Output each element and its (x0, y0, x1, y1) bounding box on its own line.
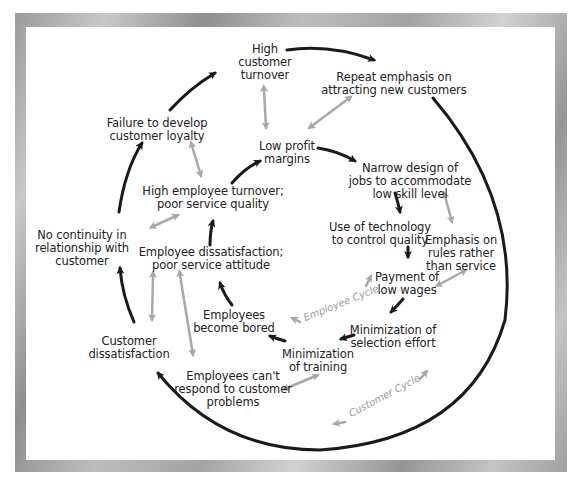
node-text: Failure to develop customer loyalty (107, 116, 208, 143)
node-text: Employees become bored (193, 308, 275, 335)
node-high-employee-turnover: High employee turnover; poor service qua… (142, 185, 283, 211)
node-text: Employee dissatisfaction; poor service a… (139, 245, 284, 272)
node-repeat-emphasis: Repeat emphasis on attracting new custom… (321, 71, 466, 97)
node-failure-customer-loyalty: Failure to develop customer loyalty (107, 117, 208, 143)
node-employees-become-bored: Employees become bored (193, 309, 275, 335)
arrow-failure-loyalty-to-high-turnover (170, 73, 215, 110)
arrow-low-profit-to-narrow-design (318, 148, 355, 161)
assoc-no-continuity-high-employee-turnover (154, 215, 178, 226)
node-payment-low-wages: Payment of low wages (375, 271, 439, 297)
assoc-repeat-emphasis-low-profit (309, 99, 348, 128)
node-text: Employees can't respond to customer prob… (174, 369, 292, 409)
node-narrow-job-design: Narrow design of jobs to accommodate low… (349, 162, 472, 201)
node-no-continuity: No continuity in relationship with custo… (35, 229, 129, 268)
customer-cycle-arrow-up (420, 371, 427, 379)
node-text: No continuity in relationship with custo… (35, 228, 129, 268)
node-text: Repeat emphasis on attracting new custom… (321, 70, 466, 97)
node-text: Emphasis on rules rather than service (425, 233, 497, 273)
node-text: Customer dissatisfaction (88, 334, 169, 361)
assoc-dissatisfaction-cant-respond (180, 275, 193, 355)
node-text: Low profit margins (259, 139, 315, 166)
node-text: High customer turnover (238, 42, 291, 82)
employee-cycle-arrow-left (292, 318, 300, 322)
node-minimization-selection: Minimization of selection effort (350, 324, 436, 350)
node-text: Payment of low wages (375, 270, 439, 297)
node-text: High employee turnover; poor service qua… (142, 184, 283, 211)
arrow-wages-to-selection (391, 299, 403, 312)
node-emphasis-on-rules: Emphasis on rules rather than service (425, 234, 497, 273)
node-employees-cant-respond: Employees can't respond to customer prob… (174, 370, 292, 409)
arrow-training-to-bored (270, 336, 285, 341)
node-low-profit-margins: Low profit margins (259, 140, 315, 166)
node-text: Narrow design of jobs to accommodate low… (349, 161, 472, 201)
assoc-dissatisfaction-customer-dissatisfaction (152, 276, 153, 320)
node-text: Use of technology to control quality (329, 220, 431, 247)
node-high-customer-turnover: High customer turnover (238, 43, 291, 82)
customer-cycle-arrow-left (334, 422, 345, 424)
node-employee-dissatisfaction: Employee dissatisfaction; poor service a… (139, 246, 284, 272)
arrow-bored-to-dissatisfaction (220, 283, 232, 305)
arrow-customer-dissatisfaction-to-no-continuity (120, 268, 134, 322)
node-text: Minimization of selection effort (350, 323, 436, 350)
assoc-high-turnover-low-profit (264, 90, 266, 128)
node-customer-dissatisfaction: Customer dissatisfaction (88, 335, 169, 361)
arrow-high-turnover-to-repeat-emphasis (287, 48, 374, 60)
arrow-no-continuity-to-failure-loyalty (119, 143, 142, 212)
node-text: Minimization of training (282, 347, 354, 374)
node-minimization-training: Minimization of training (282, 348, 354, 374)
arrow-high-employee-turnover-to-low-profit (232, 161, 260, 183)
node-use-of-technology: Use of technology to control quality (329, 221, 431, 247)
arrow-dissatisfaction-to-high-employee-turnover (210, 221, 213, 245)
assoc-failure-loyalty-high-employee-turnover (192, 146, 201, 176)
